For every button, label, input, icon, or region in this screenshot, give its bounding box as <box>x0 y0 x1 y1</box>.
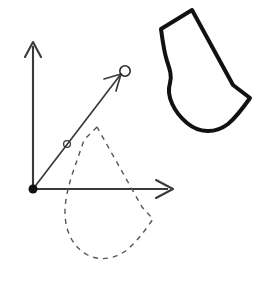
origin-point-marker <box>29 185 38 194</box>
figure-root <box>0 0 261 288</box>
canvas-background <box>0 0 261 288</box>
geometry-diagram <box>0 0 261 288</box>
